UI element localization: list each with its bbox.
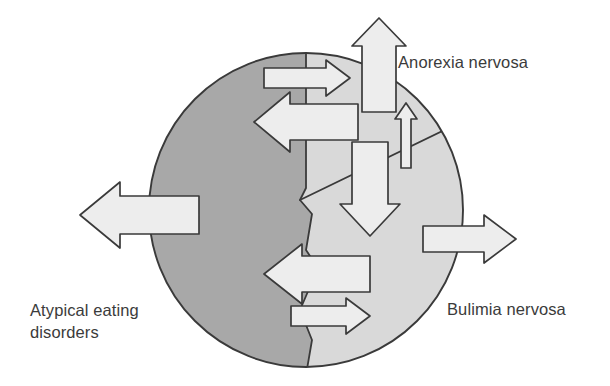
- label-bulimia-nervosa: Bulimia nervosa: [447, 299, 566, 321]
- label-atypical-eating-disorders: Atypical eating disorders: [30, 300, 139, 344]
- label-anorexia-nervosa: Anorexia nervosa: [398, 52, 528, 74]
- eating-disorder-transdiagnostic-diagram: Anorexia nervosa Bulimia nervosa Atypica…: [0, 0, 610, 386]
